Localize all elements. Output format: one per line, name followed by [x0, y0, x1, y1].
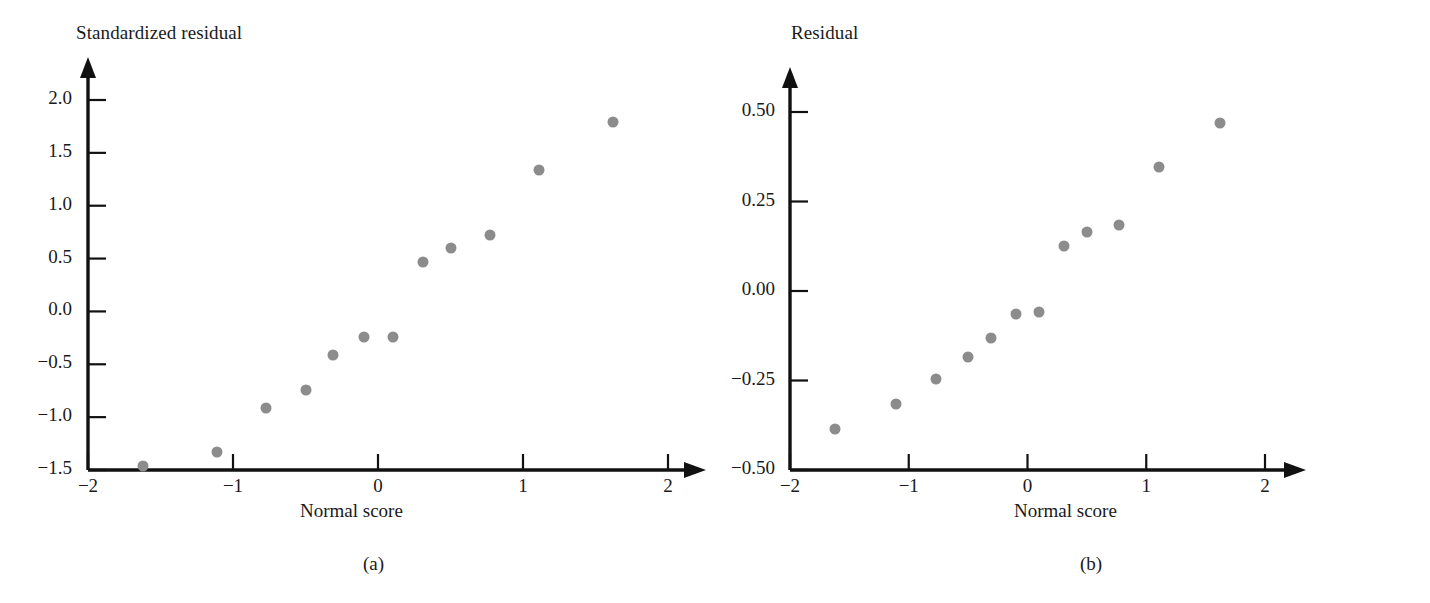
panel-b-caption: (b): [1080, 553, 1102, 575]
data-point: [1154, 162, 1165, 173]
data-point: [985, 332, 996, 343]
data-point: [931, 373, 942, 384]
chart-panel-a: Standardized residual Normal score (a) −…: [0, 0, 715, 603]
data-point: [138, 460, 149, 471]
y-tick-label: 0.25: [715, 189, 775, 211]
x-tick-label: −2: [68, 475, 108, 497]
x-tick-label: 0: [1008, 475, 1048, 497]
data-point: [358, 331, 369, 342]
x-tick-label: −1: [889, 475, 929, 497]
y-tick-label: −0.50: [715, 457, 775, 479]
data-point: [212, 447, 223, 458]
panel-b-x-axis-title: Normal score: [1014, 500, 1117, 522]
y-tick-label: 0.0: [12, 298, 72, 320]
data-point: [830, 423, 841, 434]
data-point: [445, 243, 456, 254]
data-point: [1113, 219, 1124, 230]
figure-root: Standardized residual Normal score (a) −…: [0, 0, 1430, 603]
panel-a-y-axis-title: Standardized residual: [76, 22, 242, 44]
x-tick-label: −1: [213, 475, 253, 497]
data-point: [417, 256, 428, 267]
x-tick-label: 1: [1126, 475, 1166, 497]
y-tick-label: 2.0: [12, 87, 72, 109]
data-point: [261, 402, 272, 413]
data-point: [1059, 241, 1070, 252]
y-tick-label: 0.5: [12, 246, 72, 268]
data-point: [1034, 307, 1045, 318]
data-point: [1081, 226, 1092, 237]
data-point: [890, 398, 901, 409]
panel-a-caption: (a): [363, 553, 384, 575]
data-point: [387, 331, 398, 342]
data-point: [328, 349, 339, 360]
y-tick-label: −0.5: [12, 351, 72, 373]
data-point: [1010, 309, 1021, 320]
y-tick-label: −1.0: [12, 404, 72, 426]
x-tick-label: −2: [770, 475, 810, 497]
y-tick-label: 1.5: [12, 140, 72, 162]
panel-a-x-axis-title: Normal score: [300, 500, 403, 522]
x-tick-label: 1: [503, 475, 543, 497]
x-tick-label: 2: [1245, 475, 1285, 497]
y-tick-label: 1.0: [12, 193, 72, 215]
y-tick-label: −0.25: [715, 368, 775, 390]
chart-panel-b: Residual Normal score (b) −2−1012−0.50−0…: [715, 0, 1430, 603]
data-point: [484, 230, 495, 241]
data-point: [1214, 117, 1225, 128]
x-tick-label: 0: [358, 475, 398, 497]
y-tick-label: −1.5: [12, 457, 72, 479]
y-tick-label: 0.00: [715, 278, 775, 300]
x-tick-label: 2: [648, 475, 688, 497]
data-point: [300, 384, 311, 395]
data-point: [533, 164, 544, 175]
y-tick-label: 0.50: [715, 99, 775, 121]
data-point: [963, 352, 974, 363]
panel-b-y-axis-title: Residual: [791, 22, 858, 44]
data-point: [607, 117, 618, 128]
